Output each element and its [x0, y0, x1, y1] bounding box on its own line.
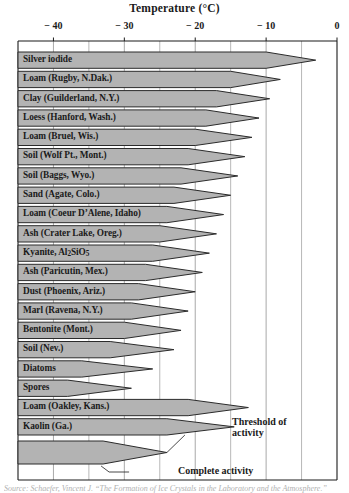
- band-row-8: [18, 206, 224, 222]
- band-row-18: [18, 399, 248, 415]
- band-row-4: [18, 129, 252, 145]
- annotation-complete-activity: Complete activity: [178, 466, 253, 477]
- band-row-0: [18, 52, 316, 68]
- band-row-19: [18, 419, 234, 435]
- band-row-17: [18, 380, 131, 396]
- band-row-3: [18, 110, 259, 126]
- band-row-15: [18, 342, 174, 358]
- band-row-7: [18, 187, 231, 203]
- figure-caption: Source: Schaefer, Vincent J. “The Format…: [4, 484, 349, 493]
- band-row-2: [18, 91, 270, 107]
- band-row-16: [18, 361, 153, 377]
- leader-line-complete: [101, 466, 129, 472]
- band-row-13: [18, 303, 188, 319]
- band-row-14: [18, 322, 181, 338]
- annotation-threshold-line2: activity: [232, 428, 287, 439]
- band-row-5: [18, 149, 245, 165]
- band-row-9: [18, 226, 216, 242]
- band-row-10: [18, 245, 209, 261]
- band-row-1: [18, 71, 280, 87]
- band-row-12: [18, 284, 195, 300]
- band-summary: [18, 441, 167, 464]
- annotation-threshold-of-activity: Threshold of activity: [232, 417, 287, 439]
- band-row-6: [18, 168, 238, 184]
- leader-line-threshold: [167, 435, 185, 453]
- band-row-11: [18, 264, 202, 280]
